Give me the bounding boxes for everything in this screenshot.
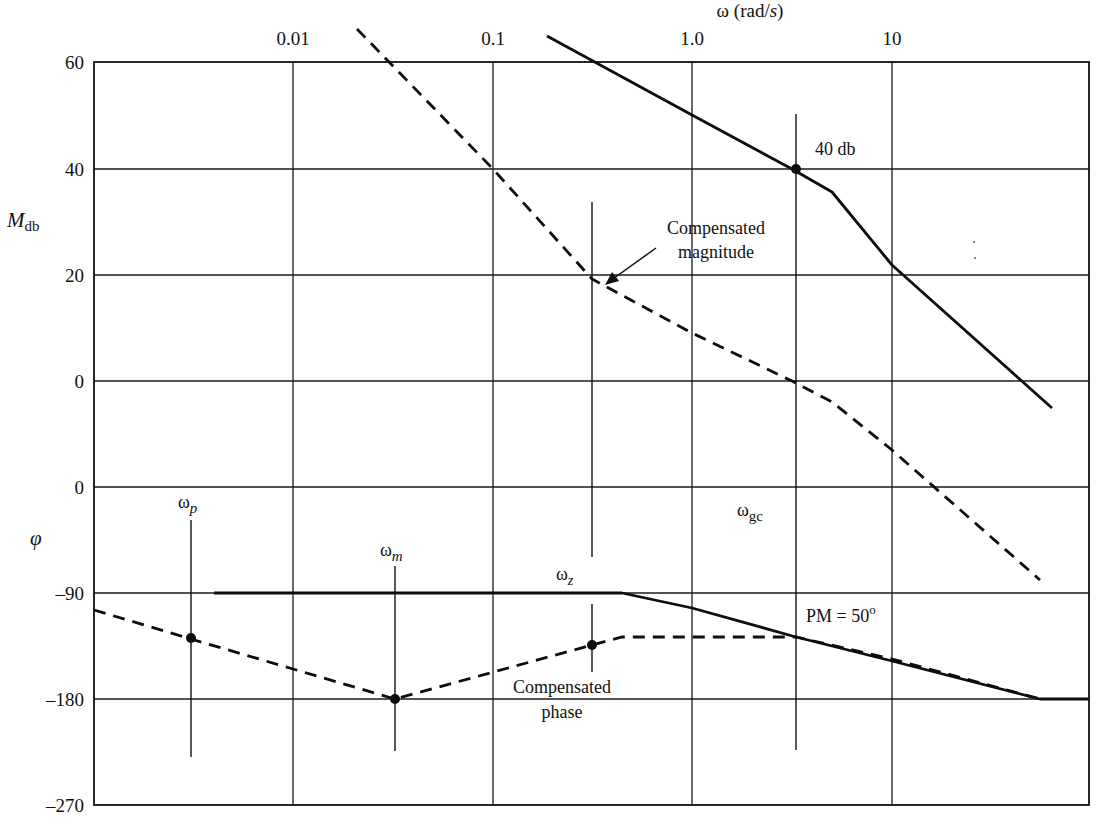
bode-plot: 0.01 0.1 1.0 10 ω (rad/s) 60 40 20 0 0 –… (0, 0, 1099, 827)
phase-tick-0: 0 (75, 477, 85, 498)
annotation-phase-margin: PM = 50o (806, 602, 876, 626)
omega-z-point (587, 640, 597, 650)
annotation-omega-m: ωm (380, 540, 403, 564)
annotation-compensated-magnitude-1: Compensated (667, 218, 765, 238)
phase-tick-minus90: –90 (55, 583, 85, 604)
phase-tick-minus180: –180 (45, 689, 84, 710)
x-tick-0.01: 0.01 (276, 28, 309, 49)
mag-tick-40: 40 (65, 159, 84, 180)
omega-m-point (390, 694, 400, 704)
annotation-40db: 40 db (815, 139, 856, 159)
arrow-icon (605, 248, 656, 285)
x-tick-0.1: 0.1 (481, 28, 505, 49)
print-speck (974, 257, 976, 259)
annotation-compensated-magnitude-2: magnitude (678, 242, 754, 262)
mag-tick-20: 20 (65, 265, 84, 286)
x-tick-10: 10 (883, 28, 902, 49)
annotation-compensated-phase-2: phase (542, 702, 583, 722)
x-tick-1.0: 1.0 (680, 28, 704, 49)
mag-tick-0: 0 (75, 371, 85, 392)
phase-tick-minus270: –270 (45, 795, 84, 816)
mag-y-axis-title: Mdb (6, 208, 40, 234)
annotation-omega-p: ωp (178, 492, 198, 516)
annotation-omega-gc: ωgc (737, 500, 763, 524)
phase-y-axis-title: φ (30, 526, 42, 550)
print-speck (973, 241, 975, 243)
gain-crossover-point (791, 164, 801, 174)
annotation-omega-z: ωz (556, 564, 574, 588)
mag-tick-60: 60 (65, 52, 84, 73)
x-axis-title: ω (rad/s) (717, 0, 784, 22)
annotation-compensated-phase-1: Compensated (513, 677, 611, 697)
omega-p-point (186, 633, 196, 643)
uncompensated-magnitude-curve (547, 36, 1052, 408)
